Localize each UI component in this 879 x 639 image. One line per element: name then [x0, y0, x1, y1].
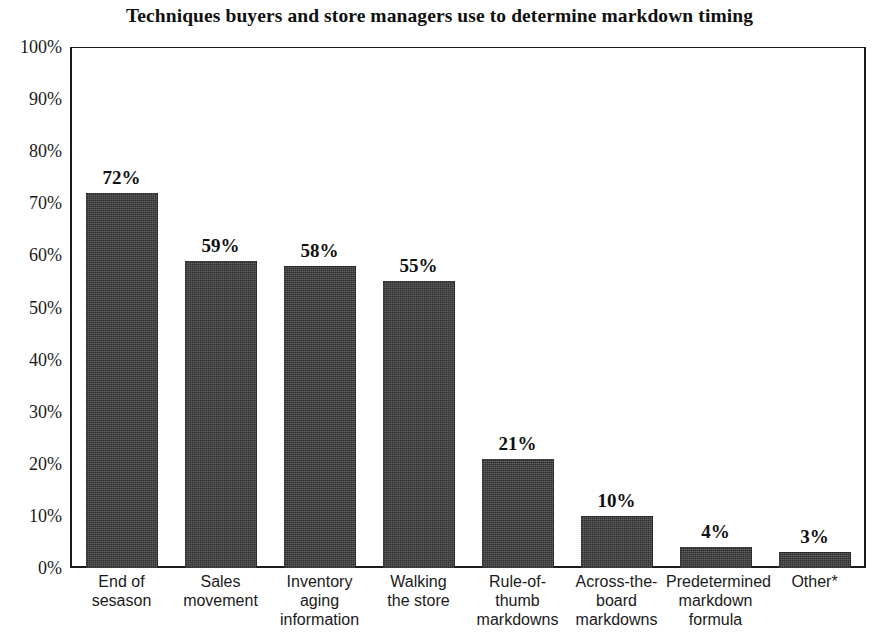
x-axis-category-label-line: aging [270, 591, 369, 610]
bar-value-label: 21% [499, 433, 537, 455]
x-axis-category-label: Other* [765, 572, 864, 591]
bar-value-label: 4% [701, 521, 730, 543]
bar-slot: 59% [171, 47, 270, 568]
x-axis-category-label-line: formula [666, 610, 765, 629]
y-axis-tick-label: 10% [0, 505, 62, 526]
bar[interactable] [383, 281, 455, 568]
bar-chart: Techniques buyers and store managers use… [0, 0, 879, 639]
bars-layer: 72%59%58%55%21%10%4%3% [72, 47, 864, 568]
y-axis-tick-label: 60% [0, 245, 62, 266]
bar-slot: 21% [468, 47, 567, 568]
x-axis-category-label: Inventoryaginginformation [270, 572, 369, 629]
x-axis-category-label-line: markdown [666, 591, 765, 610]
bar[interactable] [284, 266, 356, 568]
bar-slot: 10% [567, 47, 666, 568]
bar-value-label: 58% [301, 240, 339, 262]
bar[interactable] [482, 459, 554, 568]
chart-title: Techniques buyers and store managers use… [0, 5, 879, 27]
y-axis-tick-label: 30% [0, 401, 62, 422]
bar-slot: 3% [765, 47, 864, 568]
bar[interactable] [185, 261, 257, 568]
x-axis-category-label-line: the store [369, 591, 468, 610]
x-axis-category-label-line: Inventory [270, 572, 369, 591]
x-axis-category-label: Walkingthe store [369, 572, 468, 610]
x-axis-category-label-line: Other* [765, 572, 864, 591]
y-axis-tick-label: 80% [0, 141, 62, 162]
bar-value-label: 3% [800, 526, 829, 548]
y-axis-tick-label: 50% [0, 297, 62, 318]
x-axis-category-label-line: markdowns [567, 610, 666, 629]
y-axis-tick-label: 40% [0, 349, 62, 370]
x-axis-category-label-line: sesason [72, 591, 171, 610]
x-axis-category-label-line: Across-the- [567, 572, 666, 591]
x-axis-category-label-line: markdowns [468, 610, 567, 629]
y-axis-tick-label: 20% [0, 453, 62, 474]
bar[interactable] [680, 547, 752, 568]
x-axis-category-label-line: Predetermined [666, 572, 765, 591]
bar-value-label: 10% [598, 490, 636, 512]
x-axis-category-labels: End ofsesasonSalesmovementInventoryaging… [72, 572, 864, 639]
y-axis-tick-label: 90% [0, 89, 62, 110]
bar-value-label: 72% [103, 167, 141, 189]
y-axis-tick-labels: 100%90%80%70%60%50%40%30%20%10%0% [0, 47, 62, 568]
y-axis-tick-label: 100% [0, 37, 62, 58]
bar[interactable] [581, 516, 653, 568]
x-axis-category-label: Rule-of-thumbmarkdowns [468, 572, 567, 629]
x-axis-category-label-line: End of [72, 572, 171, 591]
bar-slot: 72% [72, 47, 171, 568]
x-axis-category-label-line: Rule-of-thumb [468, 572, 567, 610]
x-axis-category-label-line: Sales [171, 572, 270, 591]
bar-slot: 58% [270, 47, 369, 568]
x-axis-category-label: Salesmovement [171, 572, 270, 610]
bar[interactable] [86, 193, 158, 568]
y-axis-tick-label: 0% [0, 558, 62, 579]
x-axis-category-label-line: information [270, 610, 369, 629]
bar-slot: 4% [666, 47, 765, 568]
bar-slot: 55% [369, 47, 468, 568]
bar-value-label: 59% [202, 235, 240, 257]
y-axis-tick-label: 70% [0, 193, 62, 214]
bar[interactable] [779, 552, 851, 568]
x-axis-category-label-line: board [567, 591, 666, 610]
x-axis-category-label-line: movement [171, 591, 270, 610]
x-axis-category-label: End ofsesason [72, 572, 171, 610]
bar-value-label: 55% [400, 255, 438, 277]
x-axis-category-label: Across-the-boardmarkdowns [567, 572, 666, 629]
x-axis-category-label-line: Walking [369, 572, 468, 591]
x-axis-category-label: Predeterminedmarkdownformula [666, 572, 765, 629]
